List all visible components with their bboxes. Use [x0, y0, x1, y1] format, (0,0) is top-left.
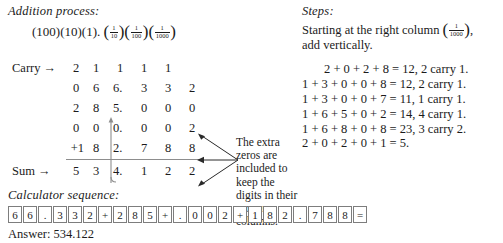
cell-addend1-hundredths: 3	[160, 78, 176, 98]
cell-carry-tenths: 1	[136, 58, 152, 78]
cell-addend4-tens: 8	[88, 138, 104, 158]
calc-key[interactable]: .	[173, 206, 187, 223]
steps-intro-comma: ,	[470, 23, 473, 37]
cell-addend3-tens: 0	[88, 118, 104, 138]
calculator-sequence-title: Calculator sequence:	[8, 188, 428, 203]
fraction-numerator: 1	[160, 25, 165, 32]
place-value-tens: (10)	[60, 24, 82, 39]
paren-open-intro: (	[443, 20, 449, 39]
cell-addend1-ones: 6.	[112, 78, 130, 98]
cell-addend1-tenths: 3	[136, 78, 152, 98]
cell-addend3-hundredths: 0	[160, 118, 176, 138]
sum-label: Sum →	[12, 161, 66, 181]
cell-addend1-tens: 6	[88, 78, 104, 98]
calc-key[interactable]: 6	[23, 206, 37, 223]
table-row-addend-1: 0 6 6. 3 3 2	[8, 78, 294, 98]
calc-key[interactable]: 7	[308, 206, 322, 223]
step-line-3: 1 + 3 + 0 + 0 + 7 = 11, 1 carry 1.	[302, 92, 498, 107]
fraction-denominator: 1000	[155, 32, 170, 40]
calc-key[interactable]: 0	[188, 206, 202, 223]
cell-addend1-thousandths: 2	[184, 78, 200, 98]
table-row-addend-2: 2 8 5. 0 0 0	[8, 98, 294, 118]
fraction-numerator: 1	[111, 25, 116, 32]
carry-label: Carry →	[12, 58, 66, 78]
step-line-5: 1 + 6 + 8 + 0 + 8 = 23, 3 carry 2.	[302, 122, 498, 137]
place-value-decimal-point: .	[97, 24, 100, 39]
paren-open-thousandths: (	[148, 22, 154, 41]
calc-key[interactable]: 3	[53, 206, 67, 223]
paren-open-hundredths: (	[124, 22, 130, 41]
cell-addend3-tenths: 0	[136, 118, 152, 138]
step-line-2: 1 + 3 + 0 + 0 + 8 = 12, 2 carry 1.	[302, 77, 498, 92]
calculator-key-sequence: 6 6 . 3 3 2 + 2 8 5 + . 0 0 2 + 1 8 2 . …	[8, 206, 428, 223]
fraction-denominator: 100	[131, 32, 143, 40]
calc-key[interactable]: 5	[143, 206, 157, 223]
decimal-alignment-guide-icon	[106, 116, 118, 183]
cell-carry-tens: 1	[88, 58, 104, 78]
step-line-6: 2 + 0 + 2 + 0 + 1 = 5.	[302, 136, 498, 151]
cell-addend4-tenths: 7	[136, 138, 152, 158]
fraction-numerator: 1	[134, 25, 139, 32]
calc-key[interactable]: +	[233, 206, 247, 223]
addition-process-panel: Addition process: (100)(10)(1). (110)(11…	[8, 4, 294, 40]
calc-key[interactable]: +	[158, 206, 172, 223]
cell-addend2-tenths: 0	[136, 98, 152, 118]
cell-addend2-hundreds: 2	[68, 98, 84, 118]
cell-addend2-hundredths: 0	[160, 98, 176, 118]
steps-panel: Steps: Starting at the right column (110…	[302, 4, 498, 151]
cell-addend3-hundreds: 0	[68, 118, 84, 138]
sum-divider-line	[66, 159, 202, 160]
calc-key[interactable]: 8	[338, 206, 352, 223]
table-row-addend-3: 0 0 0. 0 0 2	[8, 118, 294, 138]
fraction-one-thousandth: 11000	[155, 25, 170, 40]
calc-key[interactable]: 2	[218, 206, 232, 223]
calc-key[interactable]: 8	[263, 206, 277, 223]
addition-table: Carry → 2 1 1 1 1 0 6 6. 3 3 2 2 8 5. 0 …	[8, 58, 294, 183]
plus-sign-with-hundreds: +1	[60, 138, 84, 158]
calc-key[interactable]: 1	[248, 206, 262, 223]
step-line-1: 2 + 0 + 2 + 8 = 12, 2 carry 1.	[302, 62, 498, 77]
calc-key[interactable]: 3	[68, 206, 82, 223]
cell-sum-tenths: 1	[136, 161, 152, 181]
paren-close-intro: )	[464, 20, 470, 39]
calc-key[interactable]: .	[293, 206, 307, 223]
cell-addend2-thousandths: 0	[184, 98, 200, 118]
calc-key[interactable]: 2	[83, 206, 97, 223]
calc-key[interactable]: +	[98, 206, 112, 223]
cell-sum-hundreds: 5	[68, 161, 84, 181]
calc-key[interactable]: .	[38, 206, 52, 223]
paren-open-tenths: (	[104, 22, 110, 41]
place-value-hundreds: (100)	[32, 24, 60, 39]
fraction-numerator: 1	[454, 23, 459, 30]
steps-intro-text-before: Starting at the right column	[302, 23, 439, 37]
calculator-sequence-panel: Calculator sequence: 6 6 . 3 3 2 + 2 8 5…	[8, 188, 428, 242]
fraction-denominator: 1000	[449, 30, 464, 38]
step-line-4: 1 + 6 + 5 + 0 + 2 = 14, 4 carry 1.	[302, 107, 498, 122]
calc-key-equals[interactable]: =	[353, 206, 367, 223]
calc-key[interactable]: 8	[128, 206, 142, 223]
steps-intro-line-2: add vertically.	[302, 38, 373, 52]
fraction-one-tenth: 110	[110, 25, 119, 40]
cell-carry-hundreds: 2	[68, 58, 84, 78]
steps-list: 2 + 0 + 2 + 8 = 12, 2 carry 1. 1 + 3 + 0…	[302, 62, 498, 151]
cell-addend2-tens: 8	[88, 98, 104, 118]
cell-carry-hundredths: 1	[160, 58, 176, 78]
fraction-denominator: 10	[110, 32, 119, 40]
place-value-ones: (1)	[82, 24, 97, 39]
cell-addend4-hundredths: 8	[160, 138, 176, 158]
steps-intro: Starting at the right column (11000), ad…	[302, 23, 498, 52]
addition-process-title: Addition process:	[8, 4, 294, 19]
calc-key[interactable]: 2	[113, 206, 127, 223]
fraction-one-thousandth-intro: 11000	[449, 23, 464, 38]
steps-title: Steps:	[302, 4, 498, 19]
fraction-one-hundredth: 1100	[131, 25, 143, 40]
paren-close-thousandths: )	[170, 22, 176, 41]
calc-key[interactable]: 6	[8, 206, 22, 223]
cell-addend1-hundreds: 0	[68, 78, 84, 98]
calc-key[interactable]: 2	[278, 206, 292, 223]
place-value-header: (100)(10)(1). (110)(1100)(11000)	[32, 24, 294, 40]
cell-carry-ones: 1	[112, 58, 128, 78]
calc-key[interactable]: 0	[203, 206, 217, 223]
cell-sum-tens: 3	[88, 161, 104, 181]
calc-key[interactable]: 8	[323, 206, 337, 223]
